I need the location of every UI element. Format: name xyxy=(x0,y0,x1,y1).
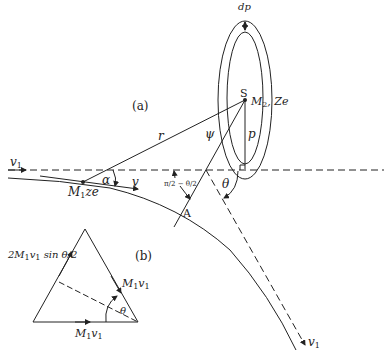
theta-a-label: θ xyxy=(222,178,229,190)
psi-label: ψ xyxy=(205,128,214,140)
diagram-lines xyxy=(0,0,386,354)
triangle-theta-label: θ xyxy=(120,306,126,316)
panel-b-label: (b) xyxy=(135,250,152,262)
s-label: S xyxy=(240,88,248,99)
d-rho-label: dp xyxy=(238,2,251,12)
triangle-left-side-label: 2M1v1 sin θ/2 xyxy=(8,250,77,262)
v1-outgoing-label: v1 xyxy=(308,336,320,350)
v-label: v xyxy=(132,176,139,188)
alpha-label: α xyxy=(102,174,110,186)
triangle-right-side-label: M1v1 xyxy=(122,278,150,291)
m2-label: M2, Ze xyxy=(251,96,289,109)
r-label: r xyxy=(158,130,164,142)
a-point-label: A xyxy=(183,208,191,219)
trajectory xyxy=(8,178,296,350)
triangle-bottom-side-label: M1v1 xyxy=(75,328,103,341)
m1-label: M1ze xyxy=(68,186,99,200)
p-label: p xyxy=(248,128,256,140)
scattering-diagram: dp S M2, Ze (a) r ψ p v1 α v M1ze π/2 − … xyxy=(0,0,386,354)
v1-incoming-label: v1 xyxy=(10,156,22,170)
half-angle-label: π/2 − θ/2 xyxy=(164,181,197,188)
panel-a-label: (a) xyxy=(132,100,149,112)
